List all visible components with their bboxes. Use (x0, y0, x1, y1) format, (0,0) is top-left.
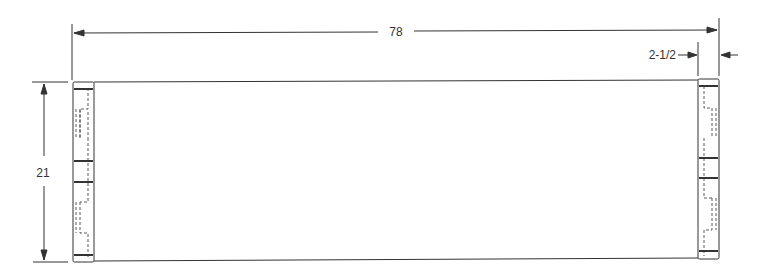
length-label: 78 (389, 25, 403, 39)
height-label: 21 (36, 166, 50, 180)
end-cap-dimension (678, 42, 738, 76)
technical-drawing: 78 2-1/2 21 (0, 0, 761, 275)
right-end-cap (698, 79, 719, 259)
end-cap-width-label: 2-1/2 (649, 48, 677, 62)
panel-outline (94, 80, 698, 261)
left-end-cap (73, 82, 94, 262)
